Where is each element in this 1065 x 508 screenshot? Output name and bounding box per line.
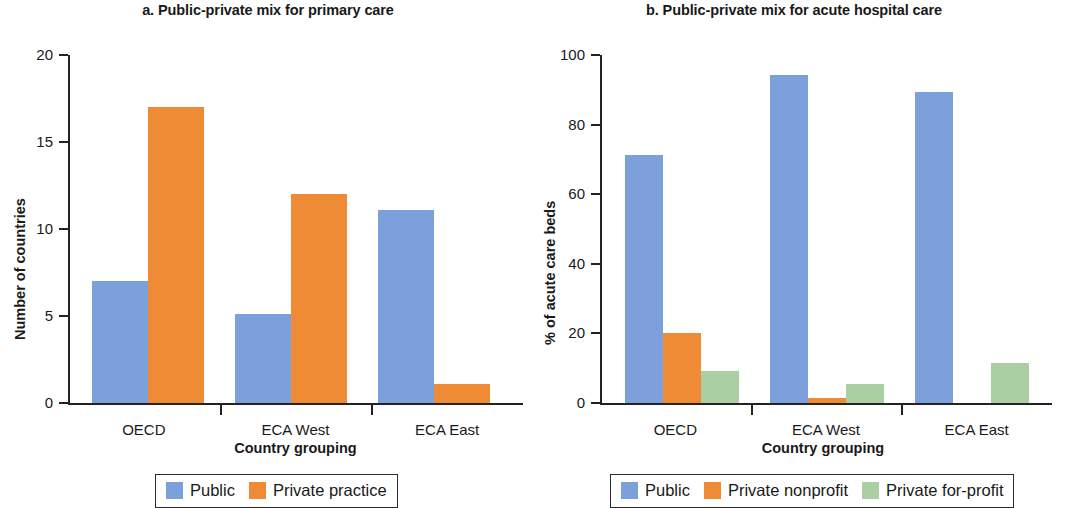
x-axis-tick: [220, 405, 222, 415]
y-axis-tick-label: 60: [532, 186, 585, 201]
y-axis-tick: [591, 263, 600, 265]
bar-oecd-private-practice: [148, 107, 204, 403]
legend-entry-private-nonprofit: Private nonprofit: [704, 482, 848, 499]
bar-eca-east-public: [378, 210, 434, 403]
y-axis-tick: [591, 332, 600, 334]
x-axis-line: [600, 403, 1052, 405]
y-axis-tick-label: 0: [532, 395, 585, 410]
bar-eca-east-public: [915, 92, 953, 403]
y-axis-tick-label: 5: [0, 308, 53, 323]
legend-swatch-icon: [166, 482, 183, 499]
legend-label: Public: [645, 482, 690, 499]
y-axis-tick: [591, 54, 600, 56]
y-axis-tick-label: 15: [0, 134, 53, 149]
bar-eca-east-private-practice: [434, 384, 490, 403]
legend-entry-private-practice: Private practice: [249, 482, 387, 499]
legend-entry-public: Public: [166, 482, 235, 499]
legend-entry-private-for-profit: Private for-profit: [862, 482, 1003, 499]
y-axis-tick: [59, 315, 68, 317]
bar-eca-west-private-nonprofit: [808, 398, 846, 403]
panel-b-y-axis-title: % of acute care beds: [542, 201, 558, 345]
x-axis-tick: [751, 405, 753, 415]
y-axis-tick-label: 20: [0, 47, 53, 62]
legend-swatch-icon: [862, 482, 879, 499]
legend-swatch-icon: [249, 482, 266, 499]
y-axis-tick-label: 80: [532, 117, 585, 132]
panel-a-legend: PublicPrivate practice: [155, 474, 398, 508]
legend-label: Private nonprofit: [728, 482, 848, 499]
bar-oecd-private-nonprofit: [663, 333, 701, 403]
y-axis-line: [68, 55, 70, 403]
bar-eca-west-private-practice: [291, 194, 347, 403]
y-axis-tick: [591, 124, 600, 126]
y-axis-tick: [59, 54, 68, 56]
y-axis-tick-label: 40: [532, 256, 585, 271]
panel-a-title: a. Public-private mix for primary care: [18, 2, 518, 18]
panel-b-title: b. Public-private mix for acute hospital…: [534, 2, 1054, 18]
y-axis-tick: [591, 193, 600, 195]
x-axis-tick-label: OECD: [68, 421, 220, 438]
panel-b-legend: PublicPrivate nonprofitPrivate for-profi…: [610, 474, 1014, 508]
bar-eca-west-private-for-profit: [846, 384, 884, 403]
legend-swatch-icon: [704, 482, 721, 499]
panel-a-x-axis-title: Country grouping: [68, 440, 523, 456]
panel-a-primary-care: a. Public-private mix for primary care N…: [0, 0, 532, 506]
bar-oecd-public: [625, 155, 663, 403]
bar-eca-east-private-for-profit: [991, 363, 1029, 403]
panel-a-plot-area: 05101520OECDECA WestECA East: [68, 55, 523, 403]
legend-swatch-icon: [621, 482, 638, 499]
x-axis-tick-label: ECA West: [751, 421, 902, 438]
legend-label: Public: [190, 482, 235, 499]
bar-oecd-private-for-profit: [701, 371, 739, 403]
y-axis-tick: [59, 141, 68, 143]
bar-eca-west-public: [770, 75, 808, 404]
panel-b-acute-hospital-care: b. Public-private mix for acute hospital…: [532, 0, 1065, 506]
x-axis-tick: [371, 405, 373, 415]
x-axis-tick-label: OECD: [600, 421, 751, 438]
y-axis-tick-label: 10: [0, 221, 53, 236]
y-axis-tick-label: 0: [0, 395, 53, 410]
panel-b-plot-area: 020406080100OECDECA WestECA East: [600, 55, 1052, 403]
y-axis-tick-label: 100: [532, 47, 585, 62]
x-axis-tick-label: ECA East: [901, 421, 1052, 438]
y-axis-line: [600, 55, 602, 403]
y-axis-tick: [591, 402, 600, 404]
y-axis-tick-label: 20: [532, 325, 585, 340]
x-axis-line: [68, 403, 523, 405]
y-axis-tick: [59, 228, 68, 230]
legend-entry-public: Public: [621, 482, 690, 499]
x-axis-tick-label: ECA East: [371, 421, 523, 438]
bar-eca-west-public: [235, 314, 291, 403]
bar-oecd-public: [92, 281, 148, 403]
x-axis-tick: [901, 405, 903, 415]
y-axis-tick: [59, 402, 68, 404]
legend-label: Private practice: [273, 482, 387, 499]
legend-label: Private for-profit: [886, 482, 1003, 499]
panel-b-x-axis-title: Country grouping: [597, 440, 1049, 456]
x-axis-tick-label: ECA West: [220, 421, 372, 438]
